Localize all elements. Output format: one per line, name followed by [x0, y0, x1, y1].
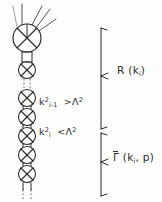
bracket-lower-close-paren: ) [150, 151, 154, 163]
bracket-label-upper: R (ki) [117, 65, 145, 78]
chain-blob-6 [19, 166, 36, 183]
dotted-gap-lower [23, 190, 31, 201]
top-blob [13, 24, 41, 52]
feynman-ladder-figure: k2i-1 >Λ2 k2i <Λ2 R (ki) Γ (ki, p) [0, 0, 162, 202]
dotted-gap-upper [24, 79, 30, 90]
cutoff-upper-scale: Λ [72, 96, 79, 107]
chain-blob-1 [19, 62, 36, 79]
bracket-lower [101, 133, 108, 196]
cutoff-lower-momentum-sub: i [49, 131, 51, 139]
bracket-label-lower: Γ (ki, p) [113, 152, 154, 165]
external-legs [13, 4, 56, 31]
cutoff-upper-scale-sup: 2 [79, 96, 83, 104]
bracket-upper [101, 28, 108, 129]
external-leg-1 [13, 6, 17, 27]
bottom-tail-rail [23, 183, 31, 190]
chain-blob-4 [19, 128, 36, 145]
bracket-upper-name: R [117, 64, 125, 76]
chain-blob-5 [19, 147, 36, 164]
cutoff-lower-scale-sup: 2 [72, 126, 76, 134]
chain-blob-3 [19, 109, 36, 126]
bracket-lower-arg2: , p [135, 151, 149, 163]
cutoff-upper-momentum-sub: i-1 [49, 101, 57, 109]
cutoff-upper-relation: > [64, 96, 72, 107]
bracket-upper-close-paren: ) [141, 64, 145, 76]
cutoff-label-upper: k2i-1 >Λ2 [39, 97, 83, 109]
bracket-lower-name: Γ [113, 152, 119, 163]
cutoff-label-lower: k2i <Λ2 [39, 127, 77, 139]
chain-blob-2 [19, 90, 36, 107]
propagator-rail-1 [22, 52, 32, 62]
